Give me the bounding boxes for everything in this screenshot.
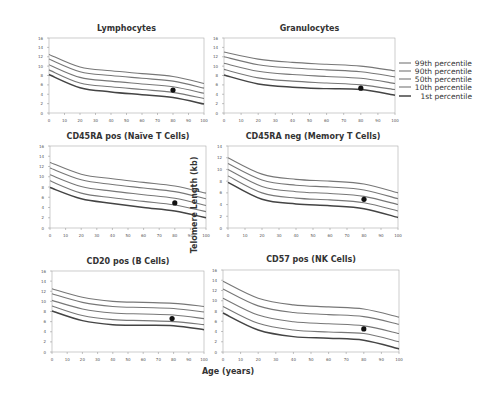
- y-tick-label: 2: [219, 214, 222, 219]
- x-tick-label: 70: [341, 118, 347, 123]
- x-tick-label: 70: [156, 357, 162, 362]
- patient-data-point: [361, 197, 366, 202]
- y-tick-label: 14: [38, 45, 44, 50]
- x-tick-label: 50: [124, 118, 130, 123]
- y-tick-label: 2: [41, 215, 44, 220]
- y-tick-label: 16: [38, 36, 44, 41]
- x-tick-label: 80: [170, 118, 176, 123]
- y-axis-label: Telomere Length (kb): [190, 157, 199, 254]
- y-tick-label: 16: [41, 269, 47, 274]
- x-tick-label: 100: [395, 357, 403, 362]
- percentile-line: [228, 164, 398, 199]
- legend: 99th percentile90th percentile50th perce…: [399, 59, 472, 101]
- patient-data-point: [358, 86, 363, 91]
- y-tick-label: 10: [213, 64, 219, 69]
- y-tick-label: 12: [212, 288, 218, 293]
- x-tick-label: 0: [227, 233, 230, 238]
- x-tick-label: 10: [65, 357, 71, 362]
- y-tick-label: 4: [41, 205, 44, 210]
- y-tick-label: 2: [215, 101, 218, 106]
- x-tick-label: 30: [273, 357, 279, 362]
- x-tick-label: 40: [290, 118, 296, 123]
- x-tick-label: 40: [291, 357, 297, 362]
- y-tick-label: 8: [219, 179, 222, 184]
- y-tick-label: 8: [214, 309, 217, 314]
- x-tick-label: 20: [79, 233, 85, 238]
- legend-label: 1st percentile: [420, 92, 472, 101]
- chart-panel: CD45RA pos (Naïve T Cells)02468101214160…: [39, 132, 210, 238]
- x-tick-label: 90: [375, 118, 381, 123]
- x-tick-label: 0: [49, 233, 52, 238]
- y-tick-label: 14: [41, 279, 47, 284]
- percentile-line: [228, 158, 398, 193]
- x-tick-label: 0: [222, 357, 225, 362]
- y-tick-label: 6: [214, 319, 217, 324]
- x-tick-label: 80: [358, 118, 364, 123]
- x-tick-label: 60: [141, 357, 147, 362]
- x-tick-label: 90: [378, 233, 384, 238]
- x-tick-label: 10: [239, 118, 245, 123]
- chart-panel: Lymphocytes02468101214160102030405060708…: [38, 24, 208, 123]
- y-tick-label: 12: [39, 164, 45, 169]
- panel-title: Granulocytes: [280, 24, 340, 33]
- x-tick-label: 10: [238, 357, 244, 362]
- panel-title: CD57 pos (NK Cells): [266, 255, 356, 264]
- x-tick-label: 70: [157, 233, 163, 238]
- x-tick-label: 30: [93, 118, 99, 123]
- y-tick-label: 0: [219, 226, 222, 231]
- x-tick-label: 90: [186, 118, 192, 123]
- telomere-figure: Lymphocytes02468101214160102030405060708…: [0, 0, 496, 399]
- patient-data-point: [172, 200, 177, 205]
- x-tick-label: 70: [344, 233, 350, 238]
- y-tick-label: 8: [43, 309, 46, 314]
- y-tick-label: 4: [214, 329, 217, 334]
- y-tick-label: 6: [215, 82, 218, 87]
- patient-data-point: [169, 316, 174, 321]
- chart-panel: Granulocytes0246810121416010203040506070…: [213, 24, 399, 123]
- y-tick-label: 6: [40, 82, 43, 87]
- percentile-line: [50, 188, 206, 218]
- percentile-line: [49, 59, 204, 88]
- x-tick-label: 20: [256, 357, 262, 362]
- chart-panel: CD20 pos (B Cells)0246810121416010203040…: [41, 257, 208, 362]
- y-tick-label: 2: [43, 339, 46, 344]
- panel-title: Lymphocytes: [97, 24, 156, 33]
- x-tick-label: 60: [324, 118, 330, 123]
- x-tick-label: 40: [108, 118, 114, 123]
- plot-frame: [228, 146, 398, 228]
- x-tick-label: 50: [125, 357, 131, 362]
- plot-frame: [49, 38, 204, 113]
- y-tick-label: 16: [39, 144, 45, 149]
- y-tick-label: 4: [219, 202, 222, 207]
- x-tick-label: 10: [63, 233, 69, 238]
- y-tick-label: 14: [217, 144, 223, 149]
- x-tick-label: 80: [171, 357, 177, 362]
- y-tick-label: 14: [212, 278, 218, 283]
- x-tick-label: 50: [310, 233, 316, 238]
- x-tick-label: 90: [379, 357, 385, 362]
- y-tick-label: 12: [41, 289, 47, 294]
- plot-frame: [52, 271, 204, 352]
- y-tick-label: 2: [214, 339, 217, 344]
- percentile-line: [224, 75, 395, 95]
- x-tick-label: 50: [307, 118, 313, 123]
- x-tick-label: 70: [344, 357, 350, 362]
- y-tick-label: 10: [212, 298, 218, 303]
- y-tick-label: 6: [41, 195, 44, 200]
- panel-title: CD45RA neg (Memory T Cells): [246, 132, 381, 141]
- x-tick-label: 20: [80, 357, 86, 362]
- y-tick-label: 4: [43, 329, 46, 334]
- x-tick-label: 60: [326, 357, 332, 362]
- x-tick-label: 0: [48, 118, 51, 123]
- x-tick-label: 100: [202, 233, 210, 238]
- x-tick-label: 10: [242, 233, 248, 238]
- y-tick-label: 10: [217, 167, 223, 172]
- x-tick-label: 30: [276, 233, 282, 238]
- x-tick-label: 20: [259, 233, 265, 238]
- chart-panel: CD45RA neg (Memory T Cells)0246810121401…: [217, 132, 402, 238]
- y-tick-label: 16: [212, 268, 218, 273]
- y-tick-label: 10: [39, 174, 45, 179]
- percentile-line: [52, 289, 204, 307]
- x-tick-label: 80: [172, 233, 178, 238]
- y-tick-label: 14: [213, 45, 219, 50]
